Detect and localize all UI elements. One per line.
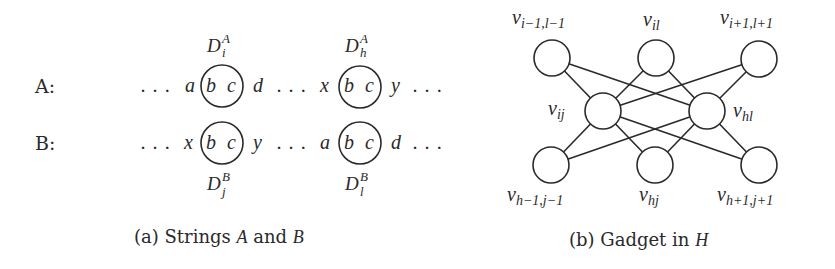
svg-text:D: D [206, 173, 221, 194]
svg-text:y: y [389, 74, 400, 97]
label-v-i+1-l+1: vi+1,l+1 [720, 6, 773, 31]
edge [551, 111, 707, 165]
ellipsis: . . . [276, 131, 306, 153]
svg-text:x: x [319, 74, 329, 96]
panel-b-gadget: vi−1,l−1 vil vi+1,l+1 vij vhl vh−1,j−1 v… [507, 6, 777, 250]
label-v-h+1-j+1: vh+1,j+1 [717, 183, 773, 208]
svg-text:b: b [344, 74, 354, 96]
string-row-b: . . . x b c y . . . a b c d . . . [140, 122, 442, 164]
ellipsis: . . . [412, 131, 442, 153]
label-v-h-1-j-1: vh−1,j−1 [507, 183, 563, 208]
svg-text:D: D [206, 35, 221, 56]
caption-b: (b) Gadget in H [569, 229, 709, 250]
row-label-a: A: [34, 75, 55, 97]
node-v-i+1-l+1 [741, 41, 777, 77]
svg-text:c: c [365, 131, 374, 153]
svg-text:b: b [206, 131, 216, 153]
ellipsis: . . . [412, 74, 442, 96]
label-v-hj: vhj [639, 183, 659, 208]
string-row-a: . . . a b c d . . . x b c y . . . [140, 65, 442, 108]
svg-text:A: A [221, 31, 230, 46]
svg-text:x: x [183, 131, 193, 153]
ellipsis: . . . [276, 74, 306, 96]
block-label-d-h-a: D A h [344, 31, 368, 60]
svg-text:d: d [253, 74, 264, 96]
node-v-hl [689, 93, 725, 129]
ellipsis: . . . [140, 131, 170, 153]
svg-text:a: a [185, 74, 195, 96]
svg-text:d: d [391, 131, 402, 153]
label-v-hl: vhl [733, 99, 753, 124]
block-label-d-i-a: D A i [206, 31, 230, 60]
svg-text:l: l [360, 184, 364, 199]
svg-text:c: c [227, 74, 236, 96]
figure: A: B: D A i D A h . . . a b c d . . . x … [0, 0, 835, 269]
panel-a-strings: A: B: D A i D A h . . . a b c d . . . x … [34, 31, 442, 247]
node-v-il [638, 40, 674, 76]
svg-text:c: c [227, 131, 236, 153]
svg-text:A: A [359, 31, 368, 46]
caption-a: (a) Strings A and B [134, 226, 304, 247]
node-v-ij [585, 93, 621, 129]
svg-text:h: h [360, 45, 367, 60]
row-label-b: B: [35, 132, 55, 154]
svg-text:i: i [222, 45, 226, 60]
svg-text:c: c [365, 74, 374, 96]
node-v-hj [637, 147, 673, 183]
label-v-il: vil [643, 8, 660, 33]
label-v-ij: vij [548, 97, 565, 122]
block-label-d-l-b: D B l [344, 169, 368, 199]
svg-text:D: D [344, 173, 359, 194]
svg-text:D: D [344, 35, 359, 56]
svg-text:B: B [222, 169, 230, 184]
svg-text:b: b [206, 74, 216, 96]
svg-text:y: y [251, 131, 262, 154]
node-v-h-1-j-1 [533, 147, 569, 183]
svg-text:a: a [320, 131, 330, 153]
label-v-i-1-l-1: vi−1,l−1 [512, 6, 565, 31]
svg-text:b: b [344, 131, 354, 153]
svg-text:j: j [220, 184, 226, 199]
node-v-i-1-l-1 [534, 40, 570, 76]
block-label-d-j-b: D B j [206, 169, 230, 199]
svg-text:B: B [360, 169, 368, 184]
ellipsis: . . . [140, 74, 170, 96]
node-v-h+1-j+1 [741, 147, 777, 183]
